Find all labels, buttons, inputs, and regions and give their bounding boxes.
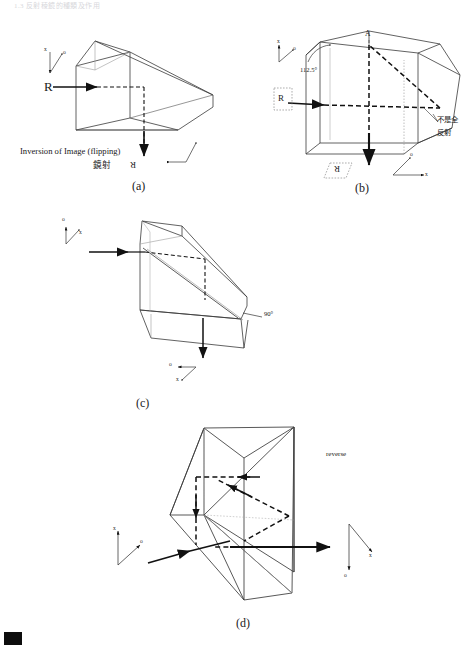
panel-b-axis-out-glyph (393, 158, 424, 175)
panel-c-input-ray (89, 252, 205, 259)
panel-c-prism (140, 221, 248, 348)
panel-b-note-cjk-line1: 不是全 (437, 113, 458, 124)
panel-b-axis-out-x-label: x (425, 171, 428, 177)
panel-a-caption-cjk: 鏡射 (93, 158, 111, 170)
panel-b-input-ray (288, 103, 324, 105)
panel-b-note-cjk-line2: 反射 (437, 126, 451, 137)
panel-b-note-leader (424, 108, 438, 122)
panel-d-axis-out-o-label: o (344, 572, 347, 578)
panel-d-input-ray (148, 541, 230, 563)
panel-a-axis-in-x-label: x (44, 46, 47, 52)
panel-b-axis-out-o-label: o (410, 151, 413, 157)
panel-c-tag: (c) (136, 396, 149, 411)
panel-d-axis-in-glyph (118, 531, 140, 565)
panel-a-tag: (a) (132, 179, 145, 194)
panel-b-tag: (b) (355, 181, 369, 196)
panel-b-axis-in-x-label: x (277, 38, 280, 44)
panel-d-axis-out-x-label: x (369, 552, 372, 558)
panel-d-axis-in-o-label: o (140, 538, 143, 544)
panel-c-angle-leader (243, 313, 262, 317)
panel-d-axis-in-x-label: x (113, 525, 116, 531)
figure-page: 1.3 反射稜鏡的種類及作用 (0, 0, 471, 650)
panel-d-prism (170, 427, 294, 600)
panel-c-axis-in-o-label: o (62, 216, 65, 222)
panel-b-axis-in-glyph (279, 45, 293, 62)
optics-prism-figure (0, 0, 471, 650)
panel-b-axis-in-o-label: o (293, 45, 296, 51)
panel-d-internal-dashed-rays (196, 477, 294, 547)
panel-b-vertex-label: A (365, 29, 370, 38)
panel-a-axis-out-glyph (170, 143, 196, 162)
panel-d-axis-out-glyph (349, 524, 372, 570)
panel-b-angle-label: 112.5° (300, 66, 317, 73)
panel-b-angle-arc (308, 45, 330, 62)
panel-c-axis-out-o-label: o (169, 361, 172, 367)
panel-c-axis-out-x-label: x (176, 376, 179, 382)
panel-c-axis-in-x-label: x (79, 229, 82, 235)
panel-a-axis-in-o-label: o (63, 49, 66, 55)
panel-c-angle-label: 90° (264, 310, 273, 317)
panel-b-input-ray-label: R (278, 93, 284, 103)
panel-d-tag: (d) (236, 616, 250, 631)
panel-a-output-ray-label: R (130, 160, 136, 170)
panel-c-axis-out-glyph (178, 367, 196, 380)
panel-b-internal-rays (324, 45, 440, 150)
panel-a-caption-en: Inversion of Image (flipping) (20, 146, 120, 156)
panel-a-axis-in-glyph (50, 52, 62, 73)
panel-d-internal-arrowheads (196, 477, 260, 518)
panel-c-axis-in-glyph (66, 227, 79, 244)
panel-a-input-ray-label: R (44, 79, 53, 95)
corner-mark (4, 632, 22, 645)
panel-b-output-ray-label: R (334, 164, 340, 174)
panel-d-note-label: reverse (326, 450, 346, 458)
